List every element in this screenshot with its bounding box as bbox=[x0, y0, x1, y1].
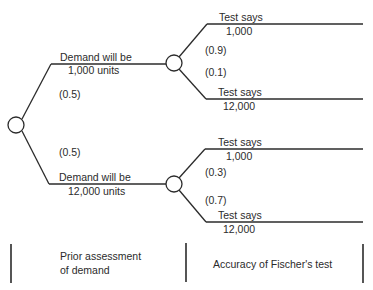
test-1-1-label-line1: Test says bbox=[219, 11, 263, 23]
test-2-2-label-line1: Test says bbox=[218, 209, 262, 221]
test-node-1-circle-icon bbox=[166, 55, 182, 71]
stage-prior-assessment-line2: of demand bbox=[60, 264, 110, 276]
test-chance-node-demand-1000 bbox=[166, 24, 363, 99]
demand-12000-probability: (0.5) bbox=[59, 146, 81, 158]
edge-root-to-demand-12000 bbox=[22, 131, 49, 184]
test-2-2-label-line2: 12,000 bbox=[223, 223, 255, 235]
edge-test-says-1000-a bbox=[179, 24, 207, 57]
test-1-1-probability: (0.9) bbox=[205, 44, 227, 56]
test-chance-node-demand-12000 bbox=[166, 149, 363, 222]
demand-1000-probability: (0.5) bbox=[59, 88, 81, 100]
stage-prior-assessment-line1: Prior assessment bbox=[60, 250, 141, 262]
test-1-1-label-line2: 1,000 bbox=[226, 25, 252, 37]
edge-test-says-12000-b bbox=[179, 190, 206, 222]
test-2-1-label-line2: 1,000 bbox=[226, 150, 252, 162]
decision-tree: Demand will be 1,000 units (0.5) (0.5) D… bbox=[0, 0, 373, 290]
root-chance-node bbox=[8, 64, 166, 184]
test-1-2-probability: (0.1) bbox=[205, 66, 227, 78]
demand-1000-label-line1: Demand will be bbox=[60, 51, 132, 63]
test-1-2-label-line2: 12,000 bbox=[223, 100, 255, 112]
test-node-2-circle-icon bbox=[166, 176, 182, 192]
demand-12000-label-line1: Demand will be bbox=[59, 171, 131, 183]
demand-12000-label-line2: 12,000 units bbox=[68, 185, 125, 197]
demand-1000-label-line2: 1,000 units bbox=[68, 64, 119, 76]
root-node-circle-icon bbox=[8, 117, 24, 133]
test-2-1-label-line1: Test says bbox=[218, 136, 262, 148]
edge-root-to-demand-1000 bbox=[22, 64, 51, 119]
stage-test-accuracy: Accuracy of Fischer's test bbox=[213, 258, 332, 270]
edge-test-says-1000-b bbox=[179, 149, 205, 178]
test-1-2-label-line1: Test says bbox=[218, 86, 262, 98]
test-2-2-probability: (0.7) bbox=[205, 194, 227, 206]
test-2-1-probability: (0.3) bbox=[205, 166, 227, 178]
edge-test-says-12000-a bbox=[179, 69, 206, 99]
